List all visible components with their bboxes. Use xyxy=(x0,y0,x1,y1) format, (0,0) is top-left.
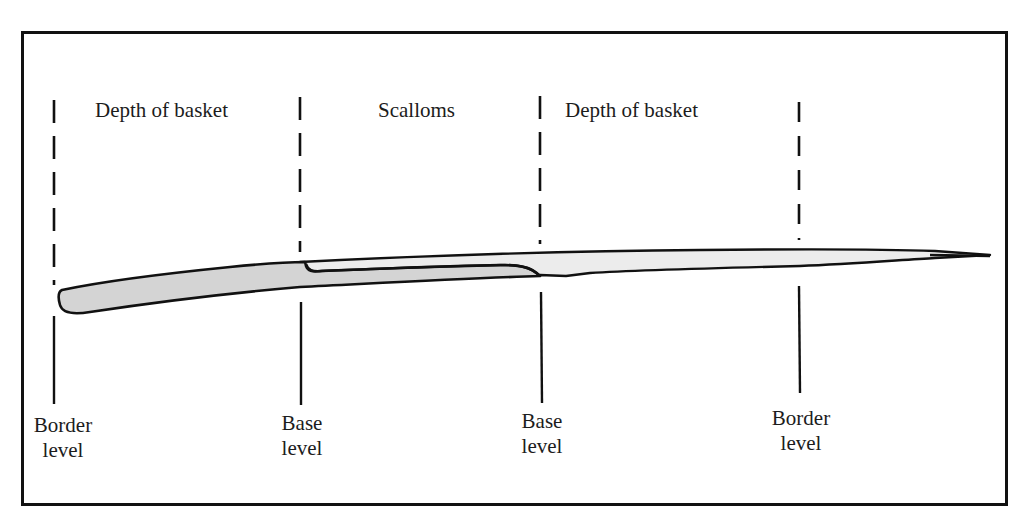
label-base-level-left-line1: Base xyxy=(273,411,331,436)
label-depth-of-basket-left: Depth of basket xyxy=(95,98,228,123)
label-border-level-left-line1: Border xyxy=(32,413,94,438)
diagram-canvas: Depth of basket Scalloms Depth of basket… xyxy=(0,0,1026,527)
label-base-level-right-line1: Base xyxy=(513,409,571,434)
label-border-level-left-line2: level xyxy=(32,438,94,463)
label-base-level-left-line2: level xyxy=(273,436,331,461)
rod-tip xyxy=(930,255,990,256)
label-border-level-right: Border level xyxy=(768,406,834,456)
rod-shaded-section xyxy=(59,262,540,313)
label-scalloms: Scalloms xyxy=(378,98,455,123)
label-base-level-right-line2: level xyxy=(513,434,571,459)
label-base-level-right: Base level xyxy=(513,409,571,459)
label-depth-of-basket-right: Depth of basket xyxy=(565,98,698,123)
level-markers-solid xyxy=(54,286,800,405)
border-level-right-solid xyxy=(799,286,800,393)
label-border-level-right-line1: Border xyxy=(768,406,834,431)
label-base-level-left: Base level xyxy=(273,411,331,461)
label-border-level-right-line2: level xyxy=(768,431,834,456)
label-border-level-left: Border level xyxy=(32,413,94,463)
base-level-right-solid xyxy=(541,292,542,403)
